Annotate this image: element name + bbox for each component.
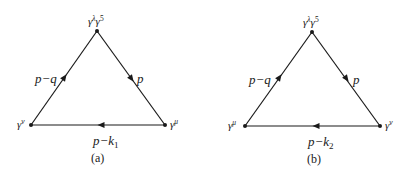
edge-label-right-a: p [136, 71, 144, 86]
vertex-label-right-a: γμ [170, 117, 178, 130]
arrow-up-left-edge-a-icon [60, 73, 69, 82]
vertex-top-b [310, 30, 314, 34]
vertex-right-a [163, 123, 167, 127]
diagram-a: γλγ5 γν γμ p−q p p−k1 (a) [17, 14, 178, 165]
vertex-label-top-a: γλγ5 [88, 14, 104, 27]
vertex-label-left-b: γμ [228, 118, 236, 131]
vertex-top-a [95, 29, 99, 33]
vertex-label-left-a: γν [17, 117, 25, 130]
edge-label-bottom-b: p−k2 [307, 134, 334, 151]
edge-label-left-b: p−q [248, 72, 271, 87]
edge-label-bottom-a: p−k1 [92, 133, 119, 150]
vertex-left-a [29, 123, 33, 127]
caption-b: (b) [307, 152, 321, 166]
edge-label-left-a: p−q [34, 71, 57, 86]
arrow-left-bottom-edge-a-icon [98, 122, 105, 128]
vertex-label-top-b: γλγ5 [303, 15, 319, 28]
arrow-left-bottom-edge-b-icon [313, 123, 320, 129]
edge-label-right-b: p [352, 72, 360, 87]
vertex-right-b [378, 124, 382, 128]
feynman-triangle-diagrams: γλγ5 γν γμ p−q p p−k1 (a) γλγ5 [0, 0, 414, 173]
vertex-left-b [243, 124, 247, 128]
caption-a: (a) [91, 151, 104, 165]
vertex-label-right-b: γν [385, 118, 393, 131]
diagram-b: γλγ5 γμ γν p−q p p−k2 (b) [228, 15, 393, 166]
arrow-down-right-edge-a-icon [127, 74, 136, 83]
